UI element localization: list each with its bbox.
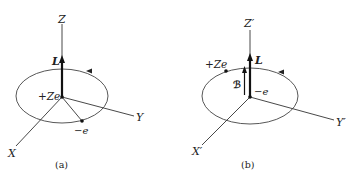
- panel-a: Z L +Ze Y −e X (a): [7, 13, 145, 170]
- b-field-label-b: ℬ: [233, 79, 241, 90]
- electron-dot-b: [248, 95, 252, 99]
- z-label-a: Z: [57, 13, 66, 26]
- electron-label-b: −e: [254, 86, 268, 97]
- y-axis-b: [250, 97, 334, 120]
- orbit-diagram: Z L +Ze Y −e X (a) Z′ L +Ze ℬ −e Y′ X: [0, 0, 364, 181]
- l-label-b: L: [254, 54, 263, 67]
- x-axis-b: [202, 97, 250, 145]
- caption-b: (b): [241, 159, 255, 170]
- nucleus-dot-a: [60, 95, 64, 99]
- nucleus-label-a: +Ze: [38, 90, 60, 102]
- z-label-b: Z′: [243, 17, 255, 30]
- caption-a: (a): [55, 159, 68, 170]
- x-label-a: X: [7, 147, 17, 160]
- x-axis-a: [16, 97, 62, 146]
- l-arrowhead-icon-b: [247, 53, 253, 61]
- electron-dot-a: [80, 119, 84, 123]
- radius-line-a: [62, 97, 82, 121]
- panel-b: Z′ L +Ze ℬ −e Y′ X′ (b): [191, 17, 346, 170]
- orbit-arrow-icon-a: [86, 69, 92, 74]
- electron-label-a: −e: [74, 125, 88, 136]
- l-label-a: L: [51, 55, 60, 68]
- y-label-b: Y′: [336, 116, 346, 129]
- b-arrowhead-icon-b: [242, 66, 247, 73]
- y-label-a: Y: [136, 111, 145, 124]
- x-label-b: X′: [191, 145, 203, 158]
- l-arrowhead-icon-a: [59, 55, 65, 63]
- nucleus-label-b: +Ze: [205, 58, 227, 70]
